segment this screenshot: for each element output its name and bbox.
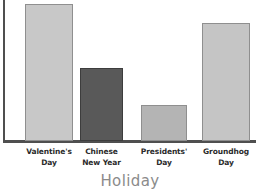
tick-line-2: Day (132, 157, 196, 168)
bar-groundhog-day (202, 23, 250, 141)
tick-line-1: Valentine's (26, 147, 72, 156)
bar-presidents-day (141, 105, 187, 141)
bar-chart: Valentine's Day Chinese New Year Preside… (0, 0, 260, 195)
x-tick-label-presidents-day: Presidents' Day (132, 146, 196, 168)
plot-area (0, 0, 260, 145)
bar-valentines-day (25, 4, 73, 141)
tick-line-1: Groundhog (203, 147, 249, 156)
tick-line-2: Day (194, 157, 258, 168)
x-tick-label-chinese-new-year: Chinese New Year (70, 146, 134, 168)
y-axis-line (3, 0, 5, 141)
x-tick-labels: Valentine's Day Chinese New Year Preside… (0, 146, 260, 174)
x-tick-label-groundhog-day: Groundhog Day (194, 146, 258, 168)
x-axis-title: Holiday (0, 172, 260, 190)
bar-chinese-new-year (80, 68, 123, 141)
tick-line-2: New Year (70, 157, 134, 168)
tick-line-1: Presidents' (141, 147, 187, 156)
tick-line-1: Chinese (85, 147, 118, 156)
